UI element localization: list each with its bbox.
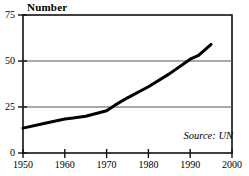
x-tick-label-1990: 1990 (168, 160, 212, 170)
y-tick-label-0: 0 (0, 148, 15, 158)
y-tick-label-25: 25 (0, 102, 15, 112)
x-tick-label-1950: 1950 (1, 160, 45, 170)
chart-container: Number 0255075 195019601970198019902000 … (0, 0, 249, 176)
y-axis-title: Number (27, 1, 67, 13)
line-chart-plot (0, 0, 249, 176)
x-tick-label-1980: 1980 (126, 160, 170, 170)
x-tick-label-1960: 1960 (43, 160, 87, 170)
x-tick-label-1970: 1970 (85, 160, 129, 170)
x-tick-label-2000: 2000 (210, 160, 249, 170)
y-tick-label-50: 50 (0, 56, 15, 66)
y-tick-label-75: 75 (0, 10, 15, 20)
source-annotation: Source: UN (184, 130, 233, 141)
